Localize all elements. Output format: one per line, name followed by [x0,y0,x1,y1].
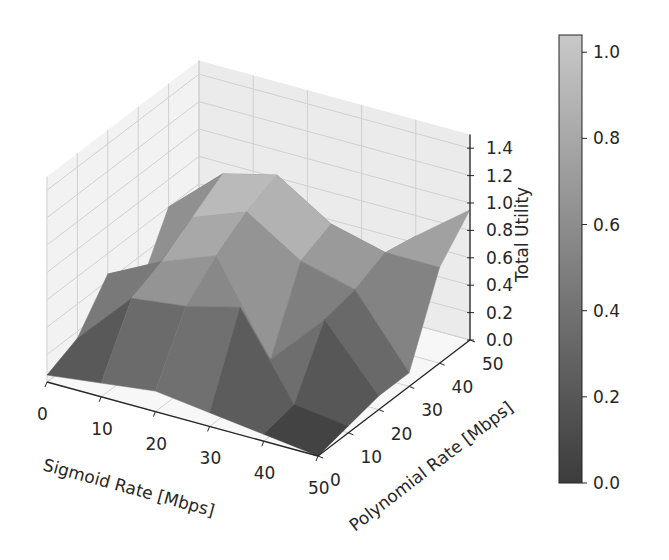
x-tick [153,412,155,417]
x-tick-label: 50 [308,478,330,498]
x-tick [45,382,47,387]
colorbar-tick-label: 1.0 [593,42,620,62]
surface-chart: 01020304050010203040500.00.20.40.60.81.0… [0,0,669,560]
x-tick [316,456,318,461]
z-tick-label: 0.4 [486,275,513,295]
colorbar-tick-label: 0.0 [593,473,620,493]
x-tick [99,397,101,402]
z-axis-label: Total Utility [512,187,532,283]
colorbar: 0.00.20.40.60.81.0 [559,35,620,493]
x-axis-label: Sigmoid Rate [Mbps] [41,455,217,521]
x-tick-label: 10 [91,419,113,439]
x-tick-label: 40 [254,463,276,483]
y-tick [379,410,384,412]
x-tick-label: 0 [37,404,48,424]
colorbar-tick-label: 0.6 [593,215,620,235]
y-tick-label: 20 [391,424,413,444]
colorbar-gradient [559,35,582,483]
x-tick-label: 30 [200,448,222,468]
colorbar-tick-label: 0.8 [593,128,620,148]
y-tick [318,456,323,458]
colorbar-tick-label: 0.4 [593,301,620,321]
y-tick-label: 10 [360,447,382,467]
y-tick-label: 0 [330,470,341,490]
z-tick-label: 0.8 [486,220,513,240]
y-tick-label: 30 [421,400,443,420]
y-tick [348,433,353,435]
y-tick-label: 50 [482,354,504,374]
x-tick [208,426,210,431]
z-tick-label: 0.6 [486,248,513,268]
colorbar-tick-label: 0.2 [593,387,620,407]
y-tick [440,363,445,365]
z-tick-label: 1.4 [486,138,513,158]
z-tick-label: 1.0 [486,193,513,213]
z-tick-label: 1.2 [486,166,513,186]
y-tick [409,386,414,388]
x-tick-label: 20 [145,434,167,454]
x-tick [262,441,264,446]
z-tick-label: 0.0 [486,330,513,350]
y-tick-label: 40 [452,377,474,397]
z-tick-label: 0.2 [486,303,513,323]
